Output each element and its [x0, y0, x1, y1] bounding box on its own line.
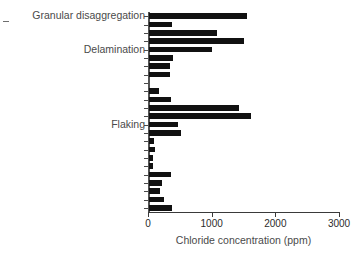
value-axis-line [148, 212, 339, 213]
category-axis-labels: Granular disaggregation Delamination Fla… [0, 0, 145, 263]
bar [149, 113, 251, 119]
value-tick-2000 [275, 212, 276, 217]
bar [149, 63, 170, 69]
category-tick [144, 50, 148, 51]
category-tick [144, 91, 148, 92]
bar [149, 97, 171, 103]
category-tick [144, 33, 148, 34]
bar [149, 22, 172, 28]
bar [149, 13, 247, 19]
bar [149, 130, 181, 136]
bar [149, 30, 217, 36]
value-tick-1000 [212, 212, 213, 217]
value-tick-label-0: 0 [145, 218, 151, 229]
bar [149, 163, 153, 169]
x-axis-title: Chloride concentration (ppm) [148, 234, 339, 246]
category-tick [144, 75, 148, 76]
bar [149, 188, 160, 194]
bar [149, 205, 172, 211]
bar [149, 155, 153, 161]
category-label-delamination: Delamination [84, 43, 145, 55]
bar [149, 88, 159, 94]
bar [149, 180, 162, 186]
category-tick [144, 116, 148, 117]
plot-area: 0100020003000 [148, 12, 339, 212]
value-tick-label-3000: 3000 [328, 218, 350, 229]
chloride-concentration-bar-chart: Granular disaggregation Delamination Fla… [0, 0, 363, 263]
value-tick-label-2000: 2000 [264, 218, 286, 229]
category-tick [144, 125, 148, 126]
bar [149, 172, 171, 178]
category-tick [144, 191, 148, 192]
category-label-flaking: Flaking [111, 118, 145, 130]
category-tick [144, 25, 148, 26]
bar [149, 38, 244, 44]
value-tick-label-1000: 1000 [201, 218, 223, 229]
value-tick-0 [148, 212, 149, 217]
category-tick [144, 108, 148, 109]
bar [149, 147, 155, 153]
category-tick [144, 66, 148, 67]
bar [149, 138, 154, 144]
category-tick [144, 183, 148, 184]
category-tick [144, 16, 148, 17]
category-tick [144, 175, 148, 176]
category-tick [144, 158, 148, 159]
bar [149, 105, 239, 111]
bar [149, 122, 178, 128]
category-tick [144, 208, 148, 209]
category-tick [144, 200, 148, 201]
category-label-granular-disaggregation: Granular disaggregation [32, 9, 145, 21]
category-tick [144, 100, 148, 101]
bar [149, 72, 170, 78]
category-tick [144, 166, 148, 167]
value-tick-3000 [339, 212, 340, 217]
bar [149, 197, 164, 203]
category-tick [144, 58, 148, 59]
category-tick [144, 141, 148, 142]
category-tick [144, 83, 148, 84]
category-tick [144, 41, 148, 42]
bar [149, 55, 173, 61]
category-tick [144, 133, 148, 134]
category-tick [144, 150, 148, 151]
bar [149, 47, 212, 53]
